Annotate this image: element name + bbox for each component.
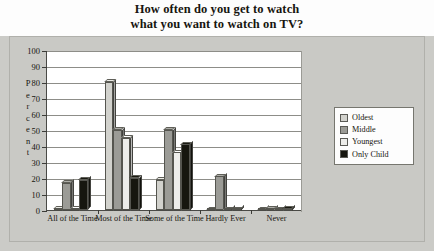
bar (181, 144, 190, 210)
chart-title-line-1: How often do you get to watch (0, 2, 434, 17)
bar-face (130, 178, 139, 210)
plot-right-edge (301, 51, 302, 212)
bar-face (283, 208, 292, 210)
legend-label: Middle (352, 125, 376, 134)
bar-side (190, 142, 193, 210)
bar-face (164, 130, 173, 210)
chart-screenshot: How often do you get to watch what you w… (0, 0, 434, 251)
legend-item[interactable]: Oldest (340, 113, 409, 122)
legend-swatch (340, 126, 348, 134)
bar-face (62, 183, 71, 210)
bar (215, 176, 224, 210)
gridline (47, 115, 301, 116)
y-axis-tick (42, 131, 47, 132)
bar-side (88, 177, 91, 210)
bar (164, 130, 173, 210)
bar-face (122, 138, 131, 210)
y-axis-tick-label: 90 (32, 62, 41, 72)
chart-title: How often do you get to watch what you w… (0, 2, 434, 32)
y-axis-tick (42, 179, 47, 180)
bar-side (224, 174, 227, 210)
y-axis-tick (42, 99, 47, 100)
legend-label: Youngest (352, 137, 383, 146)
bar (207, 209, 216, 210)
legend-item[interactable]: Youngest (340, 137, 409, 146)
bar-side (139, 175, 142, 210)
chart-legend: OldestMiddleYoungestOnly Child (334, 107, 414, 165)
bar-face (181, 144, 190, 210)
plot-area: 0102030405060708090100All of the TimeMos… (46, 51, 301, 211)
y-axis-tick-label: 100 (27, 46, 40, 56)
legend-swatch (340, 138, 348, 146)
y-axis-tick (42, 211, 47, 212)
bar (122, 138, 131, 210)
y-axis-tick-label: 50 (32, 126, 41, 136)
y-axis-tick (42, 163, 47, 164)
bar (275, 209, 284, 210)
y-axis-tick-label: 20 (32, 174, 41, 184)
title-band: How often do you get to watch what you w… (0, 0, 434, 36)
legend-swatch (340, 114, 348, 122)
bar (130, 178, 139, 210)
y-axis-tick (42, 195, 47, 196)
bar (105, 82, 114, 210)
bar (113, 130, 122, 210)
y-axis-tick-label: 80 (32, 78, 41, 88)
gridline (47, 83, 301, 84)
chart-title-line-2: what you want to watch on TV? (0, 17, 434, 32)
y-axis-tick (42, 83, 47, 84)
legend-item[interactable]: Only Child (340, 150, 409, 159)
y-axis-tick-label: 70 (32, 94, 41, 104)
y-axis-tick-label: 10 (32, 190, 41, 200)
y-axis-tick (42, 115, 47, 116)
y-axis-tick-label: 40 (32, 142, 41, 152)
y-axis-tick (42, 67, 47, 68)
bar (71, 208, 80, 210)
bar-face (173, 152, 182, 210)
legend-label: Only Child (352, 150, 389, 159)
bar-face (232, 208, 241, 210)
bar-face (215, 176, 224, 210)
bar (156, 180, 165, 210)
bar-face (156, 180, 165, 210)
bar (173, 152, 182, 210)
bar (54, 208, 63, 210)
bar-face (207, 208, 216, 210)
y-axis-tick-label: 0 (36, 206, 40, 216)
gridline (47, 67, 301, 68)
y-axis-tick-label: 60 (32, 110, 41, 120)
legend-label: Oldest (352, 113, 373, 122)
bar (283, 208, 292, 210)
bar (258, 209, 267, 210)
x-axis-label: Never (245, 214, 308, 224)
bar-face (105, 82, 114, 210)
y-axis-tick (42, 147, 47, 148)
bar (79, 180, 88, 210)
bar-face (79, 180, 88, 210)
bar-face (71, 208, 80, 210)
bar (232, 209, 241, 210)
legend-item[interactable]: Middle (340, 125, 409, 134)
gridline (47, 99, 301, 100)
legend-swatch (340, 150, 348, 158)
bar-face (54, 208, 63, 210)
bar-face (113, 130, 122, 210)
y-axis-tick (42, 51, 47, 52)
bar (62, 183, 71, 210)
y-axis-tick-label: 30 (32, 158, 41, 168)
gridline (47, 51, 301, 52)
